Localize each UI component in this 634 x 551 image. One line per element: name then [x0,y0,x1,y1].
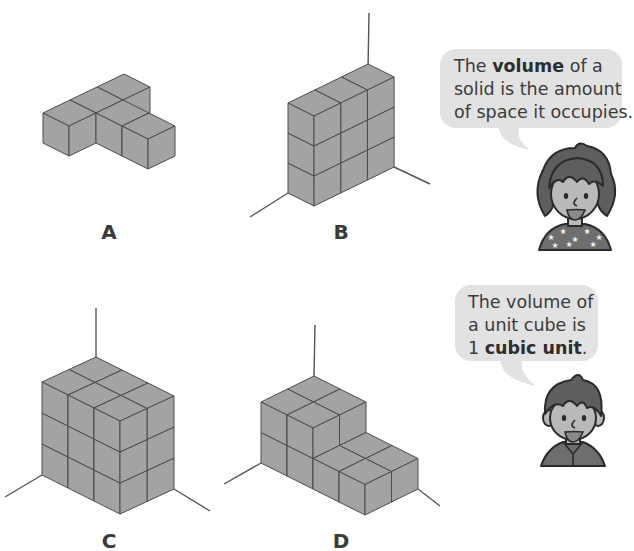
character-boy [541,375,605,466]
star-icon: ★ [559,227,566,236]
solid-a [43,74,175,169]
label-shape-b: B [333,222,348,242]
axis-vertical [314,325,315,376]
bubble-line: The volume of [468,291,593,314]
bubble-line: solid is the amount [454,78,633,101]
unit-cube [94,396,147,453]
eye-icon [564,193,568,199]
bubble-line: a unit cube is [468,314,593,337]
character-girl: ★★★★★★★★ [537,143,615,250]
star-icon: ★ [583,227,590,236]
solid-d [224,325,440,515]
axis-right [394,167,430,184]
axis-vertical [368,13,369,64]
label-shape-d: D [333,531,350,551]
bubble-tail [498,126,530,150]
bubble-line: The volume of a [454,55,633,78]
bubble-line: 1 cubic unit. [468,337,593,360]
bubble-line: of space it occupies. [454,101,633,124]
eye-icon [562,415,566,421]
axis-right [418,489,440,506]
axis-left [5,475,42,497]
bubble-text-unit-cube-definition: The volume of a unit cube is 1 cubic uni… [468,291,593,360]
label-shape-c: C [102,531,117,551]
axis-left [224,463,261,484]
label-shape-a: A [101,222,116,242]
bubble-text-volume-definition: The volume of a solid is the amount of s… [454,55,633,124]
star-icon: ★ [589,240,596,249]
eye-icon [584,193,588,199]
cube-solids [5,13,440,515]
bubble-tail [500,359,536,386]
star-icon: ★ [565,240,572,249]
star-icon: ★ [551,241,558,250]
solid-c [5,308,210,514]
axis-right [174,489,210,511]
solid-b [250,13,430,217]
eye-icon [582,415,586,421]
axis-left [250,193,288,217]
